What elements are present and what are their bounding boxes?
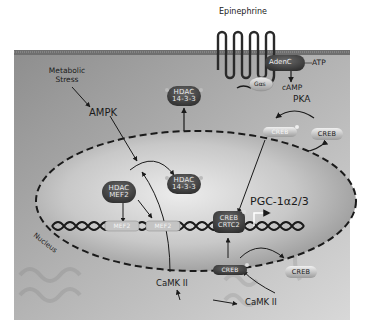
hdac-nuc-line2: 14-3-3 bbox=[172, 184, 196, 191]
camp-label: cAMP bbox=[282, 84, 302, 92]
mef2-left-text: MEF2 bbox=[105, 221, 139, 231]
atp-label: ATP bbox=[312, 59, 326, 67]
creb-crtc2-text: CREB CRTC2 bbox=[213, 211, 245, 233]
creb-free-text: CREB bbox=[311, 128, 343, 140]
g-alpha-s-label: Gαs bbox=[254, 81, 266, 87]
hdac-1433-cyto-text: HDAC 14-3-3 bbox=[167, 86, 201, 106]
creb-lower-free-text: CREB bbox=[285, 266, 317, 278]
pka-label: PKA bbox=[293, 95, 310, 104]
creb-crtc2-line2: CRTC2 bbox=[218, 222, 240, 229]
creb-phospho-text: CREB bbox=[263, 127, 297, 137]
hdac-1433-nucleus-text: HDAC 14-3-3 bbox=[167, 174, 201, 194]
mef2-right-text: MEF2 bbox=[146, 221, 180, 231]
hdac-mef2-line2: MEF2 bbox=[109, 192, 129, 199]
ampk-label: AMPK bbox=[89, 108, 117, 118]
hdac-mef2-text: HDAC MEF2 bbox=[102, 181, 136, 203]
camk-ii-right-label: CaMK II bbox=[245, 298, 277, 307]
pathway-diagram: Epinephrine Metabolic Stress AMPK AdenC … bbox=[0, 0, 370, 333]
epinephrine-label: Epinephrine bbox=[219, 8, 267, 16]
adenc-label: AdenC bbox=[269, 59, 292, 66]
metabolic-stress-label: Metabolic Stress bbox=[42, 66, 92, 84]
hdac-cyto-line2: 14-3-3 bbox=[172, 96, 196, 103]
creb-lower-phospho-text: CREB bbox=[213, 265, 247, 275]
pgc1a-gene-label: PGC-1α2/3 bbox=[250, 196, 309, 207]
camk-ii-left-label: CaMK II bbox=[156, 279, 188, 288]
